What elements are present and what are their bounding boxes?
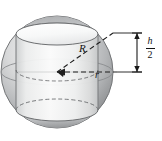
label-cylinder-radius: r: [95, 70, 99, 80]
label-half-height-denominator: 2: [142, 50, 158, 61]
dimension-arrow-icon: [113, 33, 142, 72]
label-sphere-radius: R: [79, 43, 86, 54]
sphere-cylinder-figure: R r h 2: [0, 0, 162, 141]
label-half-height-numerator: h: [142, 36, 158, 47]
figure-canvas: [0, 0, 162, 141]
label-half-height: h 2: [142, 36, 158, 60]
